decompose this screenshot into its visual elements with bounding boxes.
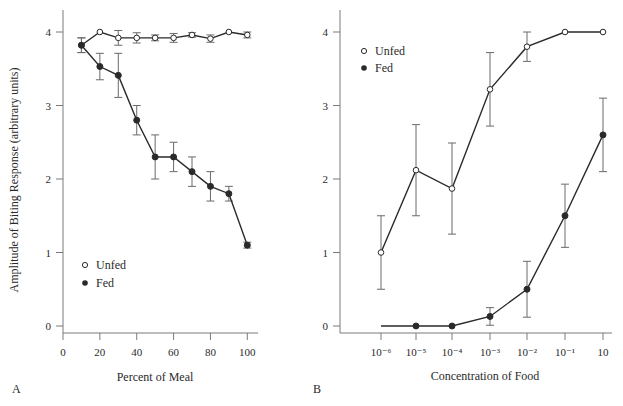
- fed-line: [81, 45, 247, 245]
- open-circle-icon: [189, 32, 195, 38]
- x-tick-label: 10: [598, 346, 610, 358]
- x-tick-label: 10⁻⁴: [442, 346, 463, 358]
- panel-b-legend: Unfed Fed: [361, 44, 405, 75]
- panel-a-letter: A: [12, 382, 21, 396]
- filled-circle-icon: [600, 132, 606, 138]
- filled-circle-icon: [115, 72, 121, 78]
- panel-a-ylabel: Amplitude of Biting Response (arbitrary …: [7, 68, 21, 293]
- y-tick-label: 1: [323, 247, 329, 259]
- y-tick-label: 3: [46, 100, 52, 112]
- filled-circle-icon: [449, 323, 455, 329]
- open-circle-icon: [115, 35, 121, 41]
- open-circle-icon: [361, 48, 366, 53]
- x-tick-label: 0: [60, 346, 66, 358]
- unfed-line: [381, 32, 603, 253]
- filled-circle-icon: [487, 313, 493, 319]
- panel-b-data: [377, 29, 607, 329]
- open-circle-icon: [171, 35, 177, 41]
- open-circle-icon: [82, 262, 87, 267]
- legend-fed: Fed: [96, 276, 114, 290]
- x-tick-label: 10⁻²: [517, 346, 538, 358]
- y-tick-label: 2: [46, 173, 52, 185]
- y-tick-label: 4: [46, 26, 52, 38]
- y-tick-label: 3: [323, 100, 329, 112]
- open-circle-icon: [152, 35, 158, 41]
- open-circle-icon: [487, 87, 493, 93]
- filled-circle-icon: [413, 323, 419, 329]
- legend-unfed: Unfed: [96, 258, 126, 272]
- open-circle-icon: [449, 186, 455, 192]
- legend-fed: Fed: [375, 61, 393, 75]
- open-circle-icon: [208, 36, 214, 42]
- open-circle-icon: [378, 250, 384, 256]
- x-tick-label: 10⁻⁵: [406, 346, 427, 358]
- x-tick-label: 20: [94, 346, 106, 358]
- y-tick-label: 2: [323, 173, 329, 185]
- panel-b-letter: B: [313, 382, 321, 396]
- x-tick-label: 10⁻⁶: [371, 346, 392, 358]
- fed-line: [381, 135, 603, 326]
- y-tick-label: 1: [46, 247, 52, 259]
- x-tick-label: 100: [239, 346, 256, 358]
- open-circle-icon: [134, 35, 140, 41]
- legend-unfed: Unfed: [375, 44, 405, 58]
- filled-circle-icon: [78, 42, 84, 48]
- open-circle-icon: [413, 167, 419, 173]
- filled-circle-icon: [82, 280, 88, 286]
- x-tick-label: 10⁻¹: [555, 346, 575, 358]
- open-circle-icon: [600, 29, 606, 35]
- y-tick-label: 0: [323, 320, 329, 332]
- filled-circle-icon: [171, 154, 177, 160]
- panel-a-legend: Unfed Fed: [82, 258, 126, 290]
- filled-circle-icon: [226, 191, 232, 197]
- filled-circle-icon: [524, 286, 530, 292]
- filled-circle-icon: [189, 169, 195, 175]
- x-tick-label: 40: [131, 346, 143, 358]
- y-tick-label: 0: [46, 320, 52, 332]
- filled-circle-icon: [97, 64, 103, 70]
- x-tick-label: 60: [168, 346, 180, 358]
- panel-b: 0123410⁻⁶10⁻⁵10⁻⁴10⁻³10⁻²10⁻¹10 Concentr…: [313, 10, 612, 396]
- x-tick-label: 80: [205, 346, 217, 358]
- filled-circle-icon: [134, 117, 140, 123]
- panel-a-axes: 01234020406080100: [46, 10, 259, 358]
- open-circle-icon: [562, 29, 568, 35]
- x-tick-label: 10⁻³: [480, 346, 501, 358]
- panel-a: 01234020406080100 Amplitude of Biting Re…: [7, 10, 258, 396]
- unfed-line: [81, 32, 247, 45]
- figure: 01234020406080100 Amplitude of Biting Re…: [0, 0, 623, 406]
- open-circle-icon: [226, 29, 232, 35]
- filled-circle-icon: [562, 213, 568, 219]
- panel-a-data: [77, 29, 251, 248]
- panel-b-xlabel: Concentration of Food: [431, 369, 540, 383]
- open-circle-icon: [97, 29, 103, 35]
- filled-circle-icon: [207, 183, 213, 189]
- open-circle-icon: [524, 44, 530, 50]
- panel-a-xlabel: Percent of Meal: [117, 370, 194, 384]
- filled-circle-icon: [244, 242, 250, 248]
- filled-circle-icon: [361, 65, 367, 71]
- open-circle-icon: [245, 32, 251, 38]
- filled-circle-icon: [152, 154, 158, 160]
- y-tick-label: 4: [323, 26, 329, 38]
